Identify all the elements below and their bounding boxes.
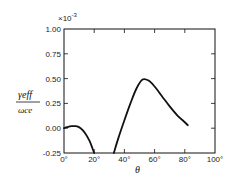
x-tick-label: 100° xyxy=(207,155,224,164)
y-axis-label-denominator: ωce xyxy=(18,105,32,115)
x-axis-label: θ xyxy=(135,164,140,175)
y-tick-label: 0.50 xyxy=(45,75,61,84)
x-tick-label: 60° xyxy=(149,155,161,164)
x-tick-label: 0° xyxy=(60,155,68,164)
data-curves xyxy=(64,79,188,153)
chart-plot: 0°20°40°60°80°100°1.000.750.500.250.00-0… xyxy=(0,0,236,177)
x-tick-label: 40° xyxy=(118,155,130,164)
y-tick-label: 0.25 xyxy=(45,99,61,108)
curve-segment-1 xyxy=(64,126,94,153)
y-tick-label: -0.25 xyxy=(43,149,62,158)
curve-segment-2 xyxy=(114,79,188,153)
y-tick-label: 0.00 xyxy=(45,124,61,133)
y-multiplier: ×10-3 xyxy=(58,12,78,23)
x-tick-label: 80° xyxy=(179,155,191,164)
y-tick-label: 0.75 xyxy=(45,50,61,59)
y-tick-label: 1.00 xyxy=(45,25,61,34)
x-tick-label: 20° xyxy=(88,155,100,164)
y-axis-label-numerator: γeff xyxy=(18,89,33,100)
